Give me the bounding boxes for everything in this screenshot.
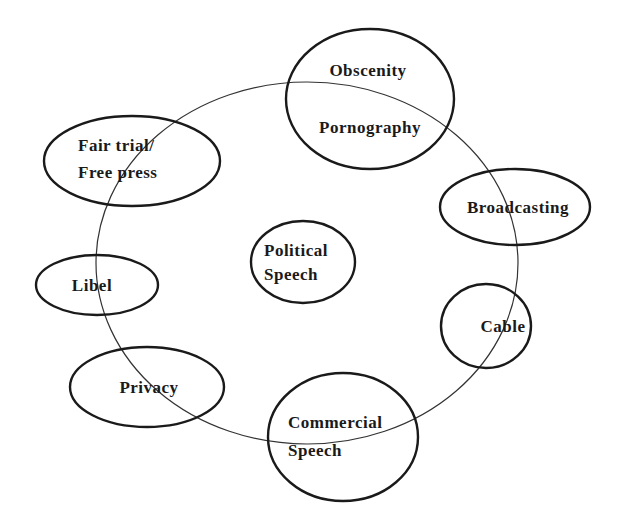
node-political-speech: Political Speech bbox=[251, 221, 355, 303]
node-obscenity-label-2: Pornography bbox=[319, 118, 421, 137]
node-fair-trial-label-2: Free press bbox=[78, 163, 157, 182]
node-privacy-label: Privacy bbox=[119, 378, 178, 397]
node-political-speech-label-1: Political bbox=[264, 241, 328, 260]
node-libel-label: Libel bbox=[72, 276, 112, 295]
node-political-speech-ellipse bbox=[251, 221, 355, 303]
node-broadcasting-label: Broadcasting bbox=[467, 198, 569, 217]
node-cable-label: Cable bbox=[481, 317, 526, 336]
node-obscenity: Obscenity Pornography bbox=[286, 29, 454, 169]
node-libel: Libel bbox=[36, 255, 158, 315]
node-fair-trial-label-1: Fair trial/ bbox=[78, 136, 154, 155]
node-commercial-speech-label-1: Commercial bbox=[288, 413, 382, 432]
node-political-speech-label-2: Speech bbox=[264, 265, 318, 284]
node-obscenity-label-1: Obscenity bbox=[329, 61, 406, 80]
node-commercial-speech-label-2: Speech bbox=[288, 441, 342, 460]
node-cable: Cable bbox=[441, 284, 531, 368]
node-commercial-speech-ellipse bbox=[268, 373, 418, 501]
concept-diagram: Obscenity Pornography Fair trial/ Free p… bbox=[0, 0, 644, 524]
node-privacy: Privacy bbox=[70, 347, 224, 427]
node-obscenity-ellipse bbox=[286, 29, 454, 169]
node-commercial-speech: Commercial Speech bbox=[268, 373, 418, 501]
